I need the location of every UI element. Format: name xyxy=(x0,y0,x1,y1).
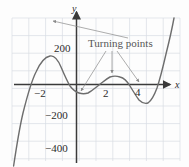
graph-figure: 200 −200 −400 −2 2 4 y x Turning points xyxy=(0,0,189,167)
figure-background xyxy=(0,0,189,167)
turning-points-label: Turning points xyxy=(88,37,153,49)
y-tick-label-200: 200 xyxy=(54,42,71,54)
y-tick-label-neg200: −200 xyxy=(45,109,68,121)
y-axis-label: y xyxy=(71,3,77,14)
x-axis-label: x xyxy=(174,79,180,90)
y-tick-label-neg400: −400 xyxy=(45,142,68,154)
x-tick-label-neg2: −2 xyxy=(34,87,46,99)
x-tick-label-2: 2 xyxy=(103,87,109,99)
graph-svg: 200 −200 −400 −2 2 4 y x Turning points xyxy=(0,0,189,167)
x-tick-label-4: 4 xyxy=(135,86,141,98)
